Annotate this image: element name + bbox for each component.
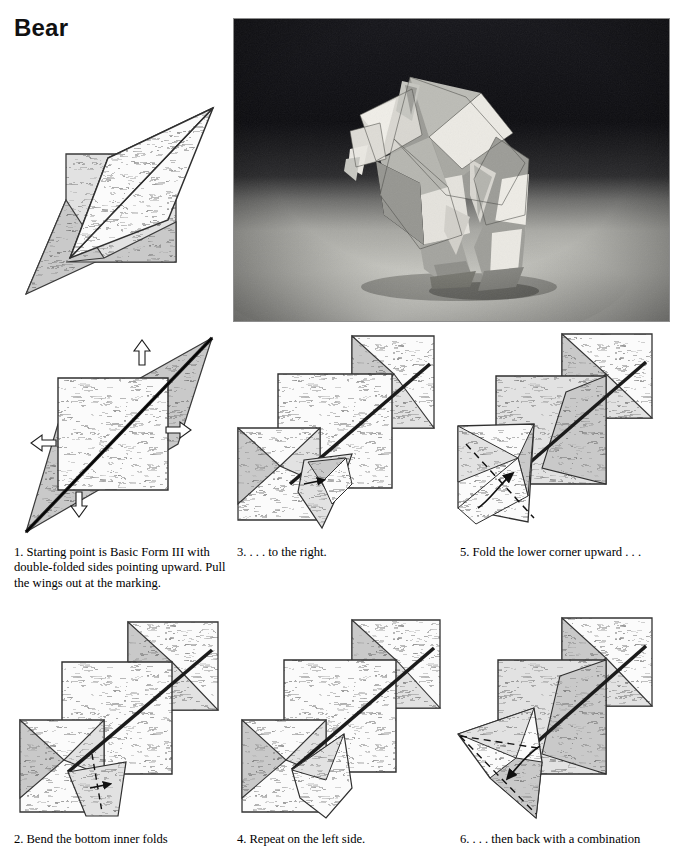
caption-step-2: 2.Bend the bottom inner folds (14, 832, 234, 847)
caption-step-5: 5.Fold the lower corner upward . . . (460, 545, 670, 560)
step-2-illustration (6, 612, 228, 827)
diagram-step-4 (234, 612, 454, 827)
step-5-illustration (456, 332, 673, 537)
diagram-basic-form (8, 62, 228, 317)
diagram-step-1 (6, 332, 228, 537)
bear-photograph-image (234, 19, 669, 321)
caption-text: Starting point is Basic Form III with do… (14, 545, 226, 590)
caption-step-3: 3.. . . to the right. (237, 545, 449, 560)
caption-text: Repeat on the left side. (249, 832, 365, 846)
caption-step-6: 6.. . . then back with a combination (460, 832, 673, 847)
caption-number: 1. (14, 545, 23, 559)
caption-text: Fold the lower corner upward . . . (472, 545, 641, 559)
pull-arrow-up (134, 340, 150, 365)
caption-step-4: 4.Repeat on the left side. (237, 832, 457, 847)
step-4-illustration (234, 612, 454, 827)
caption-text: Bend the bottom inner folds (26, 832, 167, 846)
step-3-illustration (234, 332, 454, 537)
caption-number: 4. (237, 832, 246, 846)
basic-form-illustration (8, 62, 228, 317)
step-1-illustration (6, 332, 228, 537)
caption-number: 5. (460, 545, 469, 559)
page-title: Bear (14, 14, 68, 42)
diagram-step-3 (234, 332, 454, 537)
finished-model-photo (233, 18, 670, 322)
caption-text: . . . to the right. (249, 545, 326, 559)
origami-instruction-page: Bear (0, 0, 673, 852)
diagram-step-6 (456, 612, 673, 827)
caption-text: . . . then back with a combination (472, 832, 640, 846)
caption-number: 3. (237, 545, 246, 559)
diagram-step-2 (6, 612, 228, 827)
step-6-illustration (456, 612, 673, 827)
caption-number: 6. (460, 832, 469, 846)
caption-step-1: 1.Starting point is Basic Form III with … (14, 545, 226, 591)
diagram-step-5 (456, 332, 673, 537)
caption-number: 2. (14, 832, 23, 846)
